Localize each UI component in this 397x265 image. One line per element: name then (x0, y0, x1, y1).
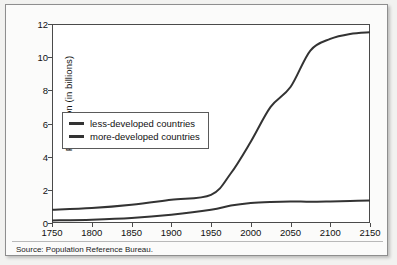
x-tick-label-2050: 2050 (280, 227, 301, 238)
x-tick-mark-2000 (251, 223, 252, 227)
x-tick-label-1900: 1900 (161, 227, 182, 238)
y-tick-mark-6 (48, 124, 52, 125)
y-axis-label: Population (in billions) (63, 24, 74, 184)
legend-line-icon (69, 122, 84, 125)
y-tick-label-12: 12 (37, 19, 48, 30)
x-tick-label-1800: 1800 (81, 227, 102, 238)
x-tick-label-1850: 1850 (121, 227, 142, 238)
x-tick-mark-1750 (52, 223, 53, 227)
legend-item-more-developed: more-developed countries (69, 130, 200, 143)
figure-card: Population (in billions) 024681012175018… (5, 4, 388, 256)
chart-legend: less-developed countriesmore-developed c… (62, 112, 209, 149)
population-projection-figure: Population (in billions) 024681012175018… (0, 0, 397, 265)
y-tick-mark-2 (48, 190, 52, 191)
y-tick-mark-10 (48, 57, 52, 58)
x-tick-mark-1850 (132, 223, 133, 227)
x-tick-mark-1950 (211, 223, 212, 227)
x-tick-mark-2100 (330, 223, 331, 227)
x-tick-mark-1900 (171, 223, 172, 227)
series-line-more-developed (52, 201, 370, 221)
x-tick-mark-2050 (291, 223, 292, 227)
source-note: Source: Population Reference Bureau. (16, 245, 153, 254)
y-tick-label-10: 10 (37, 52, 48, 63)
source-divider (12, 241, 383, 242)
x-tick-mark-2150 (370, 223, 371, 227)
x-tick-mark-1800 (92, 223, 93, 227)
x-tick-label-2100: 2100 (320, 227, 341, 238)
x-tick-label-2000: 2000 (240, 227, 261, 238)
x-tick-label-2150: 2150 (359, 227, 380, 238)
legend-item-less-developed: less-developed countries (69, 117, 200, 130)
legend-line-icon (69, 135, 84, 138)
legend-label: more-developed countries (90, 131, 200, 142)
legend-label: less-developed countries (90, 118, 195, 129)
y-tick-mark-4 (48, 157, 52, 158)
y-tick-mark-8 (48, 90, 52, 91)
x-tick-label-1950: 1950 (200, 227, 221, 238)
x-tick-label-1750: 1750 (41, 227, 62, 238)
y-tick-mark-12 (48, 24, 52, 25)
